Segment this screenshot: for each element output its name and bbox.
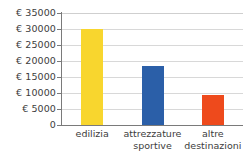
- y-axis-tick-label: € 35000: [16, 8, 56, 18]
- plot-area: [62, 13, 243, 125]
- y-axis-tick-label: € 25000: [16, 40, 56, 50]
- x-axis-label-attrezzature-sportive: attrezzature sportive: [122, 128, 182, 151]
- bar-altre-destinazioni[interactable]: [202, 95, 224, 125]
- x-axis-label-edilizia: edilizia: [62, 128, 122, 140]
- y-axis-tick-label: 0: [50, 120, 56, 130]
- bar-attrezzature-sportive[interactable]: [142, 66, 164, 125]
- y-axis-tick-label: € 10000: [16, 88, 56, 98]
- bar-chart: € 35000€ 30000€ 25000€ 20000€ 15000€ 100…: [0, 0, 245, 163]
- bar-edilizia[interactable]: [81, 29, 103, 125]
- x-axis-line: [61, 125, 243, 126]
- y-axis-tick-label: € 5000: [22, 104, 56, 114]
- y-axis-tick-label: € 20000: [16, 56, 56, 66]
- y-axis-tick-label: € 30000: [16, 24, 56, 34]
- y-axis-tick-label: € 15000: [16, 72, 56, 82]
- x-axis-label-altre-destinazioni: altre destinazioni: [183, 128, 243, 151]
